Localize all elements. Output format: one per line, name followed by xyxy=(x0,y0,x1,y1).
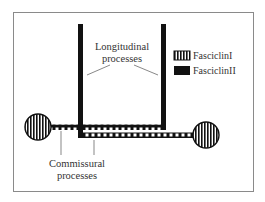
right-cell-body xyxy=(193,122,219,148)
solid-swatch-icon xyxy=(174,66,190,75)
commissural-processes xyxy=(50,125,194,139)
stripes-swatch-icon xyxy=(174,51,190,60)
legend-item-fasciclin2: FasciclinII xyxy=(174,65,236,76)
longitudinal-label-line1: Longitudinal xyxy=(95,41,149,52)
left-longitudinal-bar xyxy=(78,24,83,138)
legend-label-fasciclin1: FasciclinI xyxy=(193,50,232,61)
commissural-label-line1: Commissural xyxy=(49,158,105,169)
fasciclin-diagram: Longitudinal processes Commissural proce… xyxy=(0,0,265,202)
longitudinal-leader-right xyxy=(134,65,158,75)
right-longitudinal-bar xyxy=(161,24,166,130)
legend-item-fasciclin1: FasciclinI xyxy=(174,50,232,61)
legend: FasciclinI FasciclinII xyxy=(174,50,236,76)
legend-label-fasciclin2: FasciclinII xyxy=(193,65,236,76)
upper-commissural-bar xyxy=(50,125,164,131)
left-cell-body xyxy=(25,114,51,140)
lower-commissural-bar xyxy=(80,133,194,139)
commissural-label-line2: processes xyxy=(57,170,97,181)
longitudinal-leader-left xyxy=(87,65,110,75)
longitudinal-label-line2: processes xyxy=(102,53,142,64)
